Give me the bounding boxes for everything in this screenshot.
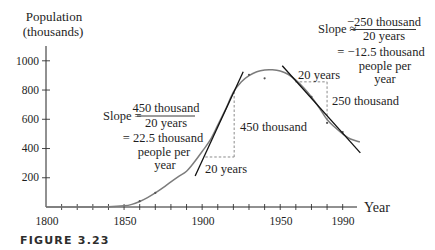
right-slope-numerator: −250 thousand xyxy=(347,15,422,29)
chart-canvas: Population (thousands) 1000 800 600 400 … xyxy=(0,0,435,250)
y-tick-label-200: 200 xyxy=(22,171,40,183)
figure-caption: FIGURE 3.23 xyxy=(20,234,110,247)
left-rise-label: 450 thousand xyxy=(240,120,308,134)
data-point xyxy=(248,74,250,76)
y-tick-label-1000: 1000 xyxy=(16,55,39,67)
right-rise-label: 250 thousand xyxy=(332,94,400,108)
right-slope-result-units-2: year xyxy=(374,72,396,86)
left-slope-result-units: people per xyxy=(138,145,191,159)
right-slope-result-units: people per xyxy=(359,59,412,73)
right-slope-result: = −12.5 thousand xyxy=(337,45,425,59)
left-slope-denominator: 20 years xyxy=(145,116,187,130)
left-slope-annotation: Slope = 450 thousand 20 years = 22.5 tho… xyxy=(103,101,308,176)
data-point xyxy=(154,192,156,194)
y-tick-label-800: 800 xyxy=(22,84,40,96)
y-tick-label-600: 600 xyxy=(22,113,40,125)
x-axis-title: Year xyxy=(364,200,390,215)
data-point xyxy=(139,200,141,202)
data-point xyxy=(264,77,266,79)
x-tick-label-1990: 1990 xyxy=(332,215,355,227)
x-tick-label-1800: 1800 xyxy=(36,215,59,227)
right-slope-annotation: Slope ≈ −250 thousand 20 years = −12.5 t… xyxy=(298,15,425,108)
x-tick-label-1900: 1900 xyxy=(192,215,215,227)
left-slope-numerator: 450 thousand xyxy=(132,101,200,115)
right-run-label: 20 years xyxy=(298,68,340,82)
y-tick-label-400: 400 xyxy=(22,142,40,154)
x-tick-label-1950: 1950 xyxy=(270,215,293,227)
y-axis-title-units: (thousands) xyxy=(23,24,84,39)
x-tick-label-1850: 1850 xyxy=(114,215,137,227)
left-slope-result: = 22.5 thousand xyxy=(123,131,204,145)
left-slope-result-units-2: year xyxy=(154,158,176,172)
y-axis-title: Population xyxy=(26,9,83,24)
right-slope-denominator: 20 years xyxy=(363,29,405,43)
data-point xyxy=(326,122,328,124)
left-tangent-line xyxy=(195,72,243,176)
population-chart-figure: Population (thousands) 1000 800 600 400 … xyxy=(0,0,435,250)
left-run-label: 20 years xyxy=(205,162,247,176)
